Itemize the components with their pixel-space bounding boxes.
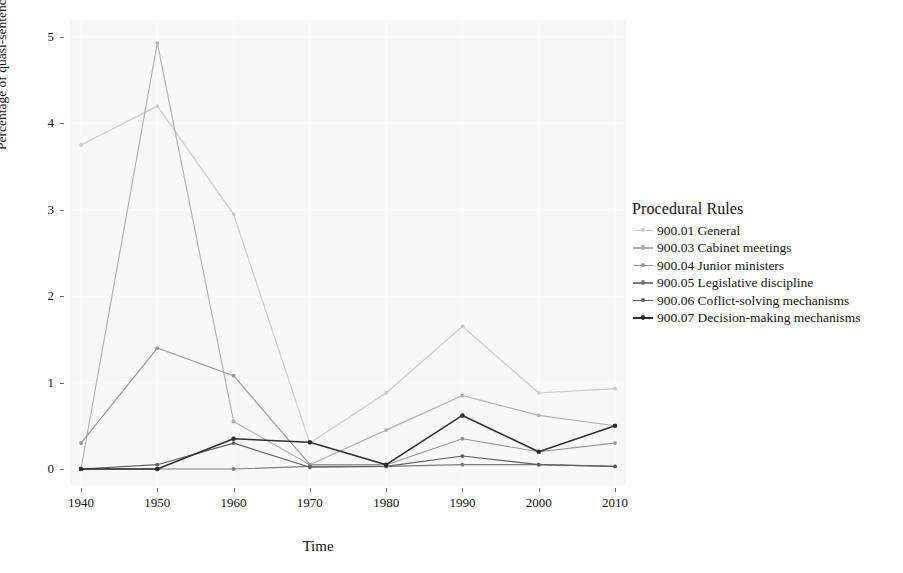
legend-key-icon xyxy=(632,224,654,238)
legend-item-label: 900.07 Decision-making mechanisms xyxy=(657,310,861,326)
y-tick-label: 4 xyxy=(28,115,54,131)
y-tick-label: 1 xyxy=(28,375,54,391)
y-tick-mark xyxy=(60,123,64,124)
legend-title: Procedural Rules xyxy=(632,200,897,218)
x-tick-mark xyxy=(615,488,616,492)
legend-item-label: 900.03 Cabinet meetings xyxy=(657,240,792,256)
legend-item-label: 900.06 Coflict-solving mechanisms xyxy=(657,293,849,309)
series-6 xyxy=(79,413,618,471)
series-2 xyxy=(79,41,617,471)
y-tick-label: 0 xyxy=(28,461,54,477)
legend-item-label: 900.05 Legislative discipline xyxy=(657,275,813,291)
y-axis-title: Percentage of quasi-sentences xyxy=(0,0,10,150)
legend-item-2[interactable]: 900.03 Cabinet meetings xyxy=(632,240,897,258)
legend: Procedural Rules 900.01 General900.03 Ca… xyxy=(632,200,897,327)
y-tick-label: 3 xyxy=(28,202,54,218)
x-tick-label: 1980 xyxy=(361,495,411,511)
x-axis-title: Time xyxy=(0,538,636,555)
series-3 xyxy=(79,346,617,466)
x-tick-label: 1940 xyxy=(56,495,106,511)
legend-key-icon xyxy=(632,276,654,290)
y-tick-mark xyxy=(60,210,64,211)
legend-item-label: 900.01 General xyxy=(657,223,740,239)
line-chart-figure: Percentage of quasi-sentences 012345 194… xyxy=(0,0,903,573)
y-tick-mark xyxy=(60,383,64,384)
x-tick-mark xyxy=(386,488,387,492)
legend-item-3[interactable]: 900.04 Junior ministers xyxy=(632,257,897,275)
x-tick-label: 1970 xyxy=(285,495,335,511)
legend-item-label: 900.04 Junior ministers xyxy=(657,258,784,274)
x-tick-mark xyxy=(157,488,158,492)
x-tick-label: 2010 xyxy=(590,495,640,511)
legend-item-1[interactable]: 900.01 General xyxy=(632,222,897,240)
x-tick-label: 1990 xyxy=(437,495,487,511)
y-tick-label: 5 xyxy=(28,29,54,45)
x-tick-mark xyxy=(310,488,311,492)
y-tick-mark xyxy=(60,296,64,297)
series-1 xyxy=(79,104,617,445)
legend-items: 900.01 General900.03 Cabinet meetings900… xyxy=(632,222,897,327)
legend-key-icon xyxy=(632,311,654,325)
x-tick-label: 2000 xyxy=(514,495,564,511)
legend-item-6[interactable]: 900.07 Decision-making mechanisms xyxy=(632,310,897,328)
x-tick-label: 1950 xyxy=(132,495,182,511)
legend-key-icon xyxy=(632,259,654,273)
legend-item-5[interactable]: 900.06 Coflict-solving mechanisms xyxy=(632,292,897,310)
series-5 xyxy=(79,441,617,471)
legend-item-4[interactable]: 900.05 Legislative discipline xyxy=(632,275,897,293)
y-tick-label: 2 xyxy=(28,288,54,304)
legend-key-icon xyxy=(632,294,654,308)
x-tick-mark xyxy=(539,488,540,492)
y-tick-mark xyxy=(60,37,64,38)
x-tick-mark xyxy=(462,488,463,492)
plot-area xyxy=(70,20,626,486)
x-tick-mark xyxy=(81,488,82,492)
series-lines xyxy=(70,20,626,486)
legend-key-icon xyxy=(632,241,654,255)
x-tick-mark xyxy=(234,488,235,492)
x-tick-label: 1960 xyxy=(209,495,259,511)
y-tick-mark xyxy=(60,469,64,470)
